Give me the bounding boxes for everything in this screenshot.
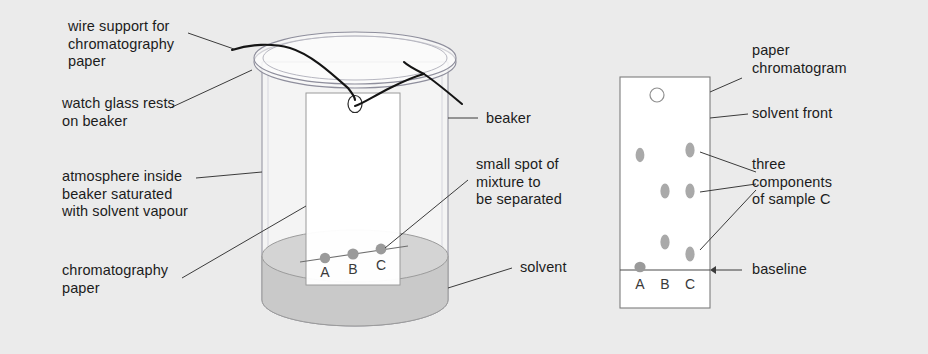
chromatogram-hole [650, 88, 664, 102]
leader-atmosphere [196, 172, 262, 178]
baseline-arrowhead [710, 266, 716, 274]
label-wire-support: wire support for chromatography paper [68, 18, 174, 71]
label-paper-chromatogram: paper chromatogram [752, 42, 847, 77]
chromatogram-lane-letter-a: A [631, 276, 649, 292]
spot-a-origin [634, 262, 645, 272]
apparatus-lane-letter-c: C [372, 257, 390, 273]
label-solvent-front: solvent front [752, 105, 832, 123]
label-three-components: three components of sample C [752, 156, 832, 209]
apparatus-spot-a [320, 253, 330, 263]
label-small-spot: small spot of mixture to be separated [476, 156, 562, 209]
spot-b-2 [660, 235, 669, 250]
apparatus-spot-c [376, 244, 387, 255]
spot-a-1 [636, 148, 645, 162]
apparatus-spot-b [347, 248, 358, 259]
leader-watch-glass [170, 70, 252, 108]
apparatus-lane-letter-b: B [344, 261, 362, 277]
chromatogram-lane-letter-b: B [656, 276, 674, 292]
spot-c-1 [685, 143, 694, 158]
leader-solvent-front [710, 114, 748, 118]
spot-c-3 [685, 247, 694, 262]
chromatogram-lane-letter-c: C [681, 276, 699, 292]
spot-c-2 [685, 184, 694, 199]
label-chromatography-paper: chromatography paper [62, 262, 168, 297]
chromatography-figure: wire support for chromatography paper wa… [0, 0, 928, 354]
label-atmosphere: atmosphere inside beaker saturated with … [62, 168, 188, 221]
label-solvent: solvent [520, 259, 567, 277]
leader-solvent [448, 268, 512, 288]
watch-glass [254, 32, 456, 88]
spot-b-1 [660, 184, 669, 199]
label-baseline: baseline [752, 261, 807, 279]
leader-wire-support [188, 33, 234, 49]
label-watch-glass: watch glass rests on beaker [62, 95, 175, 130]
apparatus-lane-letter-a: A [316, 264, 334, 280]
leader-paper-chromatogram [710, 78, 742, 92]
label-beaker: beaker [486, 110, 531, 128]
